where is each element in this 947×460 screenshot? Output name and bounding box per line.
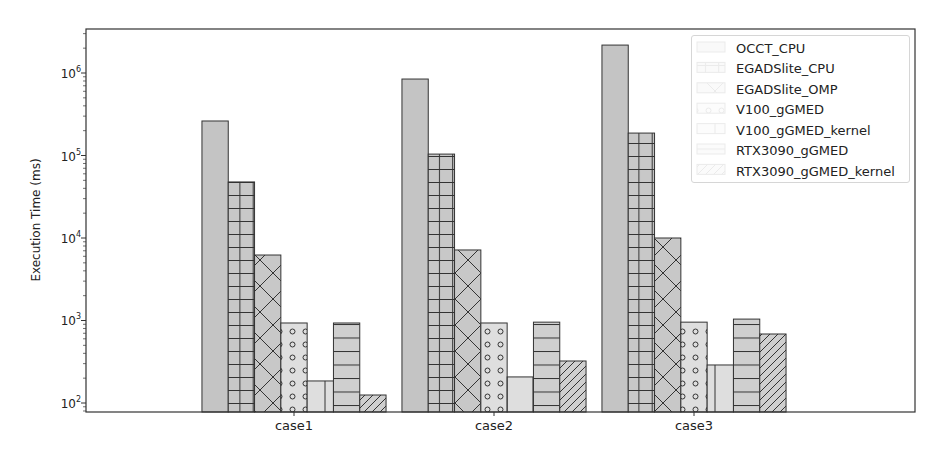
bar-case1-V100_gGMED_kernel: [307, 381, 333, 412]
legend-item-egadslite-cpu: EGADSlite_CPU: [726, 60, 835, 76]
bar-case3-V100_gGMED: [681, 322, 707, 412]
bar-case2-V100_gGMED_kernel: [507, 377, 533, 412]
bar-case3-RTX3090_gGMED: [733, 319, 759, 412]
x-tick-label-case2: case2: [475, 418, 513, 433]
bar-case2-RTX3090_gGMED: [533, 322, 559, 412]
bar-case1-OCCT_CPU: [202, 121, 228, 412]
y-tick-label-1000000: 106: [61, 65, 81, 81]
y-tick-label-100000: 105: [61, 148, 81, 164]
legend-item-rtx3090-gGMED-kernel: RTX3090_gGMED_kernel: [726, 163, 895, 179]
bar-case3-EGADSlite_CPU: [628, 133, 654, 412]
bar-case1-V100_gGMED: [281, 323, 307, 412]
y-axis-label: Execution Time (ms): [29, 158, 43, 281]
y-tick-label-1000: 103: [61, 312, 81, 328]
legend-item-egadslite-omp: EGADSlite_OMP: [726, 81, 838, 97]
bar-case1-EGADSlite_CPU: [228, 182, 254, 412]
x-tick-label-case1: case1: [275, 418, 313, 433]
bar-case2-V100_gGMED: [481, 323, 507, 412]
bar-case1-RTX3090_gGMED: [333, 323, 359, 412]
y-tick-label-10000: 104: [61, 230, 81, 246]
bar-case2-OCCT_CPU: [402, 79, 428, 412]
bar-case1-RTX3090_gGMED_kernel: [360, 395, 386, 412]
y-tick-label-100: 102: [61, 395, 81, 411]
legend-item-v100-gGMED-kernel: V100_gGMED_kernel: [726, 122, 871, 138]
legend-item-rtx3090-gGMED: RTX3090_gGMED: [726, 142, 848, 158]
bar-case3-V100_gGMED_kernel: [707, 365, 733, 412]
bar-case2-EGADSlite_CPU: [428, 154, 454, 412]
legend: OCCT_CPU EGADSlite_CPU EGADSlite_OMP V10…: [691, 35, 910, 183]
bar-case2-EGADSlite_OMP: [455, 250, 481, 412]
x-tick-label-case3: case3: [675, 418, 713, 433]
legend-item-occt-cpu: OCCT_CPU: [726, 40, 805, 56]
legend-item-v100-gGMED: V100_gGMED: [726, 101, 824, 117]
bar-case3-OCCT_CPU: [602, 45, 628, 412]
bar-case3-RTX3090_gGMED_kernel: [760, 334, 786, 412]
bar-case3-EGADSlite_OMP: [655, 238, 681, 412]
y-axis-ticks: [81, 34, 86, 411]
bar-case1-EGADSlite_OMP: [255, 255, 281, 412]
bar-case2-RTX3090_gGMED_kernel: [560, 361, 586, 412]
